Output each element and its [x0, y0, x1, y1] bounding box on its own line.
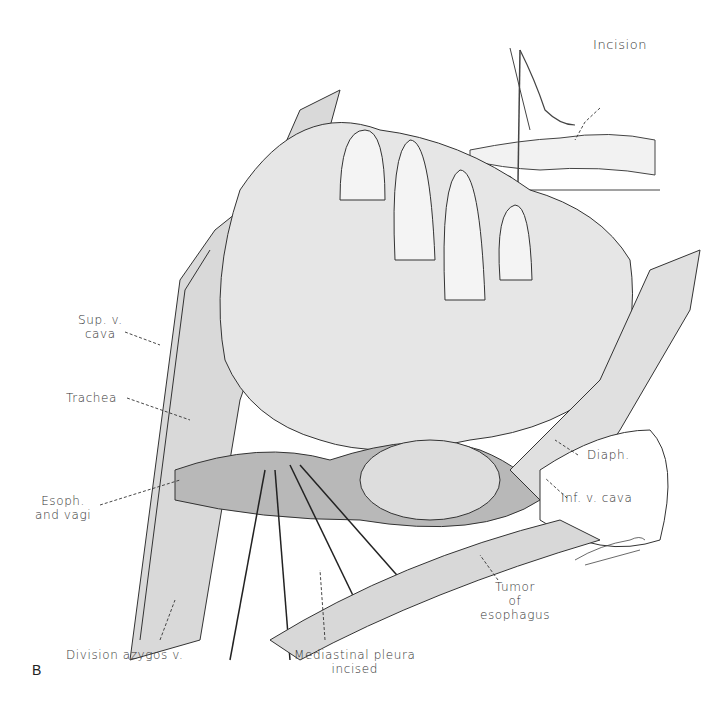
label-tumor: Tumor of esophagus: [480, 580, 550, 622]
label-trachea: Trachea: [66, 391, 117, 405]
panel-letter: B: [32, 662, 41, 678]
label-esoph-line2: and vagi: [35, 508, 91, 522]
label-esoph-line1: Esoph.: [35, 494, 91, 508]
label-sup-v-cava-line1: Sup. v.: [78, 313, 123, 327]
surgical-illustration: [0, 0, 717, 717]
label-diaph: Diaph.: [587, 448, 630, 462]
label-incision: Incision: [593, 38, 647, 52]
label-mediastinal-line1: Mediastinal pleura: [294, 648, 415, 662]
label-esoph-vagi: Esoph. and vagi: [35, 494, 91, 522]
label-mediastinal-pleura: Mediastinal pleura incised: [294, 648, 415, 676]
label-sup-v-cava-line2: cava: [78, 327, 123, 341]
label-inf-v-cava: Inf. v. cava: [561, 491, 633, 505]
label-tumor-line2: of: [480, 594, 550, 608]
inset-patient-sketch: [470, 48, 660, 190]
label-tumor-line3: esophagus: [480, 608, 550, 622]
label-mediastinal-line2: incised: [294, 662, 415, 676]
label-tumor-line1: Tumor: [480, 580, 550, 594]
label-sup-v-cava: Sup. v. cava: [78, 313, 123, 341]
label-division-azygos: Division azygos v.: [66, 648, 184, 662]
